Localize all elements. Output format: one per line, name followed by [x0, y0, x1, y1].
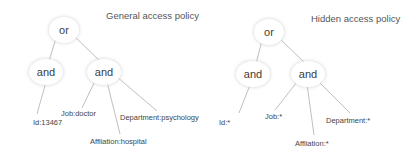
- general-policy-title: General access policy: [106, 10, 199, 21]
- or-node: or: [254, 19, 284, 45]
- leaf-department: Department:psychology: [120, 113, 199, 122]
- and-node-left: and: [29, 59, 63, 85]
- leaf-id: Id:13467: [33, 118, 62, 127]
- leaf-id: Id:*: [219, 118, 230, 127]
- and-node-left: and: [236, 61, 270, 87]
- hidden-policy-title: Hidden access policy: [311, 13, 400, 24]
- leaf-job: Job:doctor: [61, 109, 96, 118]
- leaf-job: Job:*: [265, 112, 282, 121]
- and-node-right: and: [291, 61, 325, 87]
- leaf-affiliation: Affliation:*: [295, 139, 329, 148]
- leaf-department: Department:*: [326, 116, 370, 125]
- leaf-affiliation: Affliation:hospital: [90, 137, 147, 146]
- and-node-right: and: [87, 59, 121, 85]
- or-node: or: [49, 17, 79, 43]
